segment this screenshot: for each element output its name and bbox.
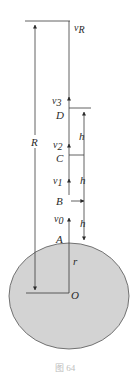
label-v1: v1 bbox=[53, 175, 62, 188]
label-r: r bbox=[73, 255, 78, 267]
label-h-bottom: h bbox=[80, 217, 86, 229]
label-D: D bbox=[55, 109, 64, 121]
label-h-top: h bbox=[79, 130, 85, 142]
label-v3: v3 bbox=[52, 95, 61, 108]
label-C: C bbox=[56, 152, 64, 164]
label-h-mid: h bbox=[80, 174, 86, 186]
label-B: B bbox=[56, 195, 63, 207]
label-A: A bbox=[55, 233, 63, 245]
label-v0: v0 bbox=[54, 213, 63, 226]
label-R: R bbox=[30, 136, 38, 148]
figure-caption: 图 64 bbox=[55, 363, 76, 373]
label-vR: vR bbox=[74, 22, 85, 35]
label-v2: v2 bbox=[53, 139, 62, 152]
label-O: O bbox=[71, 289, 79, 301]
diagram-figure: vR v3 D h v2 C R h v1 B v0 h A r O 图 64 bbox=[0, 0, 139, 387]
